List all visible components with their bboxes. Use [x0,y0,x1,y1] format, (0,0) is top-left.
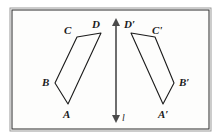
vertex-label-c-prime: C' [152,25,162,36]
vertex-label-a-prime: A′ [158,109,168,120]
vertex-label-a: A [63,109,70,120]
geometry-figure: A B C D A′ B′ C' D′ l [0,0,223,138]
vertex-label-b-prime: B′ [179,77,189,88]
vertex-label-c: C [64,25,71,36]
mirror-line-label: l [122,113,125,123]
figure-canvas [0,0,223,138]
figure-frame-outer [10,8,211,131]
vertex-label-d-prime: D′ [124,19,135,30]
vertex-label-d: D [92,19,100,30]
vertex-label-b: B [42,77,49,88]
